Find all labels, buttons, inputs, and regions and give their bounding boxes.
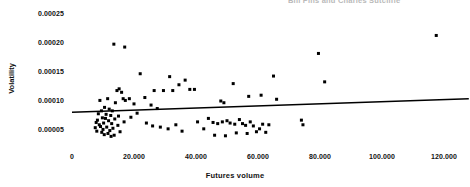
scatter-point	[219, 100, 222, 103]
scatter-point	[143, 96, 146, 99]
scatter-point	[123, 120, 126, 123]
scatter-point	[105, 113, 108, 116]
scatter-point	[226, 119, 229, 122]
x-axis-label: Futures volume	[0, 171, 470, 180]
scatter-point	[260, 94, 263, 97]
scatter-point	[120, 91, 123, 94]
scatter-point	[252, 124, 255, 127]
scatter-point	[102, 128, 105, 131]
scatter-point	[207, 117, 210, 120]
scatter-point	[193, 88, 196, 91]
scatter-point	[103, 106, 106, 109]
scatter-point	[123, 46, 126, 49]
scatter-point	[94, 126, 97, 129]
scatter-point	[150, 104, 153, 107]
scatter-point	[153, 89, 156, 92]
scatter-point	[216, 122, 219, 125]
scatter-point	[117, 115, 120, 118]
scatter-point	[104, 117, 107, 120]
scatter-point	[119, 130, 122, 133]
scatter-markers	[94, 34, 438, 138]
scatter-point	[108, 129, 111, 132]
scatter-point	[95, 121, 98, 124]
scatter-point	[300, 119, 303, 122]
scatter-point	[317, 52, 320, 55]
scatter-point	[212, 121, 215, 124]
scatter-point	[139, 72, 142, 75]
plot-canvas	[0, 0, 470, 187]
scatter-point	[267, 123, 270, 126]
scatter-point	[264, 131, 267, 134]
scatter-point	[128, 97, 131, 100]
scatter-point	[108, 108, 111, 111]
scatter-point	[109, 114, 112, 117]
scatter-point	[101, 116, 104, 119]
scatter-point	[116, 124, 119, 127]
scatter-point	[233, 123, 236, 126]
scatter-point	[133, 102, 136, 105]
scatter-point	[106, 132, 109, 135]
scatter-point	[221, 120, 224, 123]
scatter-point	[184, 79, 187, 82]
scatter-point	[177, 83, 180, 86]
scatter-point	[110, 135, 113, 138]
scatter-point	[145, 122, 148, 125]
scatter-point	[188, 88, 191, 91]
scatter-point	[258, 127, 261, 130]
scatter-point	[151, 124, 154, 127]
scatter-point	[110, 122, 113, 125]
scatter-point	[323, 80, 326, 83]
scatter-point	[435, 34, 438, 37]
scatter-point	[202, 127, 205, 130]
trendline	[72, 99, 469, 113]
scatter-point	[222, 101, 225, 104]
scatter-point	[235, 131, 238, 134]
scatter-point	[95, 130, 98, 133]
scatter-point	[162, 89, 165, 92]
scatter-point	[301, 123, 304, 126]
scatter-point	[111, 127, 114, 130]
scatter-point	[107, 119, 110, 122]
scatter-point	[224, 134, 227, 137]
scatter-point	[168, 75, 171, 78]
scatter-point	[174, 123, 177, 126]
scatter-point	[246, 132, 249, 135]
scatter-point	[181, 130, 184, 133]
scatter-point	[255, 130, 258, 133]
scatter-point	[196, 120, 199, 123]
scatter-point	[102, 122, 105, 125]
scatter-point	[105, 126, 108, 129]
scatter-point	[232, 82, 235, 85]
scatter-point	[124, 99, 127, 102]
scatter-point	[167, 127, 170, 130]
scatter-point	[98, 99, 101, 102]
scatter-point	[129, 116, 132, 119]
scatter-point	[112, 43, 115, 46]
scatter-point	[136, 112, 139, 115]
scatter-point	[247, 95, 250, 98]
scatter-point	[244, 124, 247, 127]
scatter-plot-figure: Bill Pins and Charles Sutcliffe Volatili…	[0, 0, 470, 187]
scatter-point	[97, 112, 100, 115]
scatter-point	[114, 101, 117, 104]
scatter-point	[229, 122, 232, 125]
scatter-point	[106, 97, 109, 100]
scatter-point	[118, 87, 121, 90]
scatter-point	[213, 134, 216, 137]
scatter-point	[171, 89, 174, 92]
trendline-path	[72, 99, 469, 113]
scatter-point	[113, 117, 116, 120]
scatter-point	[238, 118, 241, 121]
scatter-point	[103, 133, 106, 136]
scatter-point	[113, 134, 116, 137]
scatter-point	[275, 98, 278, 101]
scatter-point	[241, 122, 244, 125]
scatter-point	[249, 120, 252, 123]
scatter-point	[272, 75, 275, 78]
scatter-point	[261, 123, 264, 126]
scatter-point	[159, 126, 162, 129]
scatter-point	[99, 125, 102, 128]
